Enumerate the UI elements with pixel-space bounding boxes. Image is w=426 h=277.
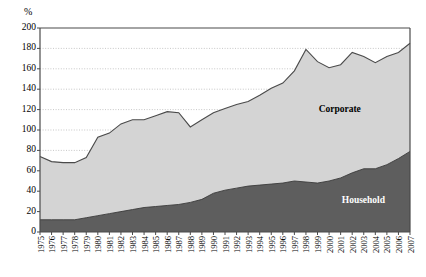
series-label-corporate: Corporate	[319, 104, 361, 114]
x-axis-tick-1984: 1984	[140, 236, 150, 253]
x-axis-tick-2006: 2006	[394, 236, 404, 253]
x-axis-tick-2007: 2007	[406, 236, 416, 253]
x-axis-tick-1992: 1992	[232, 236, 242, 253]
x-axis-tick-1981: 1981	[105, 236, 115, 253]
x-axis-tick-1976: 1976	[47, 236, 57, 253]
x-axis-tick-1982: 1982	[116, 236, 126, 253]
x-axis-tick-1988: 1988	[186, 236, 196, 253]
x-axis-tick-1979: 1979	[82, 236, 92, 253]
x-axis-tick-1985: 1985	[151, 236, 161, 253]
x-axis-tick-1994: 1994	[255, 236, 265, 253]
x-axis-tick-1996: 1996	[278, 236, 288, 253]
x-axis-tick-1991: 1991	[221, 236, 231, 253]
x-axis-tick-1998: 1998	[301, 236, 311, 253]
x-axis-tick-1978: 1978	[70, 236, 80, 253]
x-axis-tick-2005: 2005	[382, 236, 392, 253]
x-axis-tick-1993: 1993	[244, 236, 254, 253]
x-axis-tick-1997: 1997	[290, 236, 300, 253]
x-axis-tick-1987: 1987	[174, 236, 184, 253]
stacked-area-chart: % 020406080100120140160180200 1975197619…	[0, 0, 426, 277]
x-axis-tick-1995: 1995	[267, 236, 277, 253]
x-axis-tick-1989: 1989	[197, 236, 207, 253]
x-axis-tick-1999: 1999	[313, 236, 323, 253]
x-axis-tick-1983: 1983	[128, 236, 138, 253]
series-label-household: Household	[342, 195, 385, 205]
x-axis-tick-2001: 2001	[336, 236, 346, 253]
x-axis-tick-2003: 2003	[359, 236, 369, 253]
x-axis-tick-2002: 2002	[348, 236, 358, 253]
x-axis-tick-1986: 1986	[163, 236, 173, 253]
x-axis-tick-1975: 1975	[36, 236, 46, 253]
chart-page: % 020406080100120140160180200 1975197619…	[0, 0, 426, 277]
x-axis-tick-2004: 2004	[371, 236, 381, 253]
x-axis-tick-2000: 2000	[325, 236, 335, 253]
x-axis-tick-1977: 1977	[59, 236, 69, 253]
x-axis-tick-1980: 1980	[93, 236, 103, 253]
x-axis-tick-1990: 1990	[209, 236, 219, 253]
